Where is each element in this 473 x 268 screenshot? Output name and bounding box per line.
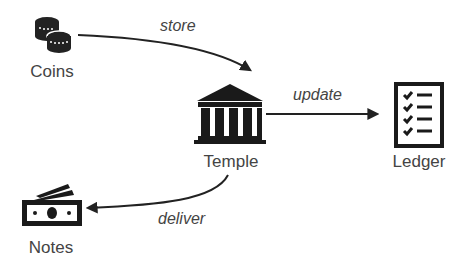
node-label-notes: Notes	[20, 238, 82, 258]
banknotes-icon	[22, 184, 82, 226]
edge-deliver	[88, 175, 228, 208]
checklist-icon	[396, 84, 442, 146]
diagram-canvas	[0, 0, 473, 268]
node-label-coins: Coins	[30, 62, 74, 82]
node-label-temple: Temple	[196, 152, 266, 172]
edge-label-update: update	[293, 86, 342, 104]
coins-icon	[35, 17, 71, 53]
temple-icon	[194, 84, 266, 144]
edge-label-store: store	[160, 17, 196, 35]
edge-store	[78, 35, 250, 70]
edge-label-deliver: deliver	[158, 210, 205, 228]
node-label-ledger: Ledger	[386, 152, 452, 172]
